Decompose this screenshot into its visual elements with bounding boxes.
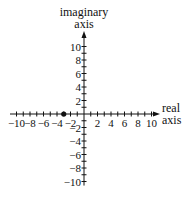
y-tick-label: 2 — [76, 95, 82, 107]
complex-plane-chart: −10−8−6−4−2246810108642−2−4−6−8−10 imagi… — [0, 0, 190, 207]
x-tick-label: −6 — [38, 117, 50, 129]
data-point — [61, 111, 66, 116]
x-tick-label: −8 — [24, 117, 36, 129]
y-tick-label: 6 — [76, 68, 82, 80]
x-tick-label: 10 — [146, 117, 158, 129]
y-tick-label: −2 — [69, 122, 81, 134]
x-tick-label: −4 — [51, 117, 63, 129]
x-tick-label: −10 — [8, 117, 26, 129]
y-tick-label: 4 — [76, 81, 82, 93]
y-axis-label-line2: axis — [74, 17, 94, 31]
y-tick-label: −4 — [69, 135, 81, 147]
x-tick-label: 6 — [122, 117, 128, 129]
y-tick-label: −10 — [64, 176, 82, 188]
y-tick-label: −8 — [69, 162, 81, 174]
y-tick-label: 8 — [76, 54, 82, 66]
x-tick-label: 4 — [108, 117, 114, 129]
y-axis-arrow-icon — [82, 31, 87, 38]
axes — [10, 31, 160, 186]
y-tick-label: 10 — [70, 41, 82, 53]
y-tick-label: −6 — [69, 149, 81, 161]
x-axis-label-line2: axis — [162, 113, 182, 127]
data-points — [61, 111, 66, 116]
x-axis-arrow-icon — [153, 112, 160, 117]
x-tick-label: 8 — [135, 117, 141, 129]
x-tick-label: 2 — [95, 117, 101, 129]
